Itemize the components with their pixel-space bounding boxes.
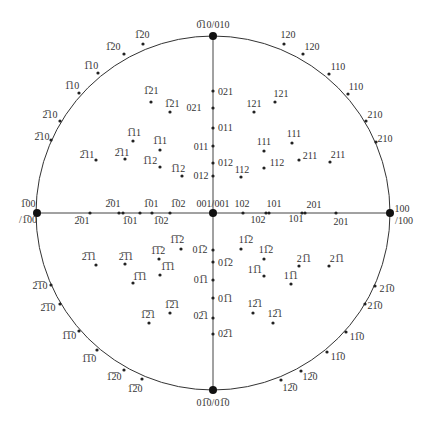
pole-point xyxy=(363,302,366,305)
pole-label: 1̅11 xyxy=(153,135,167,146)
pole-label: 2̅1̅0 xyxy=(33,280,48,291)
pole-point xyxy=(211,316,214,319)
pole-label: 1̅2̅1 xyxy=(165,299,180,310)
pole-label: 1̅12 xyxy=(171,163,186,174)
pole-point xyxy=(327,72,330,75)
right-pole-label-secondary: /100 xyxy=(395,215,413,226)
center-pole-marker xyxy=(209,209,217,217)
pole-point xyxy=(95,348,98,351)
pole-point xyxy=(211,174,214,177)
pole-label: 01̅1 xyxy=(218,293,233,304)
pole-label: 01̅2 xyxy=(218,257,233,268)
right-pole-label: 100 xyxy=(395,203,410,214)
pole-label: 021 xyxy=(218,86,233,97)
pole-label: 101 xyxy=(289,213,304,224)
pole-label: 1̅01 xyxy=(144,198,159,209)
pole-label: 211 xyxy=(303,150,318,161)
pole-label: 1̅1̅2 xyxy=(170,234,185,245)
pole-label: 210 xyxy=(368,109,383,120)
bottom-pole-label: 01̅0/01̅0 xyxy=(197,397,230,408)
pole-label: 01̅2 xyxy=(193,244,208,255)
pole-point xyxy=(140,377,143,380)
pole-label: 11̅0 xyxy=(331,351,346,362)
pole-point xyxy=(239,175,242,178)
pole-point xyxy=(179,247,182,250)
pole-label: 102 xyxy=(235,198,250,209)
top-pole-marker xyxy=(209,32,217,40)
pole-label: 021 xyxy=(187,102,202,113)
pole-label: 21̅1 xyxy=(330,253,345,264)
pole-label: 1̅20 xyxy=(135,29,150,40)
pole-label: 102 xyxy=(251,214,266,225)
pole-label: 12̅1 xyxy=(268,308,283,319)
pole-point xyxy=(251,311,254,314)
pole-point xyxy=(168,311,171,314)
pole-label: 201 xyxy=(334,216,349,227)
pole-point xyxy=(344,330,347,333)
pole-point xyxy=(211,296,214,299)
pole-point xyxy=(131,139,134,142)
pole-label: 21̅1 xyxy=(297,253,312,264)
pole-label: 1̅02 xyxy=(171,198,186,209)
pole-point xyxy=(328,160,331,163)
pole-label: 2̅01 xyxy=(75,215,90,226)
pole-label: 121 xyxy=(274,88,289,99)
pole-point xyxy=(303,211,306,214)
pole-label: 1̅21 xyxy=(144,85,159,96)
pole-label: 01̅1 xyxy=(194,274,209,285)
pole-label: 1̅1̅0 xyxy=(62,330,77,341)
pole-label: 201 xyxy=(307,199,322,210)
pole-label: 2̅1̅1 xyxy=(82,251,97,262)
pole-label: 1̅11 xyxy=(127,127,141,138)
pole-point xyxy=(211,89,214,92)
pole-point xyxy=(262,274,265,277)
pole-label: 2̅10 xyxy=(35,131,50,142)
pole-point xyxy=(282,42,285,45)
pole-label: 1̅12 xyxy=(143,155,158,166)
pole-point xyxy=(158,273,161,276)
pole-label: 2̅11 xyxy=(115,147,130,158)
top-pole-label: 0̅10/010 xyxy=(197,19,230,30)
pole-point xyxy=(211,332,214,335)
stereographic-projection-diagram: 1̅201̅201̅101̅102̅102̅101201201101102102… xyxy=(0,0,426,427)
pole-point xyxy=(373,284,376,287)
pole-point xyxy=(149,100,152,103)
pole-point xyxy=(262,149,265,152)
pole-label: 211 xyxy=(331,149,346,160)
pole-point xyxy=(96,71,99,74)
pole-label: 1̅02 xyxy=(154,215,169,226)
pole-label: 012 xyxy=(194,170,209,181)
pole-label: 2̅01 xyxy=(106,198,121,209)
pole-point xyxy=(297,158,300,161)
pole-label: 2̅1̅0 xyxy=(41,302,56,313)
pole-label: 012 xyxy=(218,157,233,168)
pole-label: 02̅1 xyxy=(194,310,209,321)
pole-point xyxy=(94,158,97,161)
pole-label: 21̅0 xyxy=(380,283,395,294)
pole-point xyxy=(262,166,265,169)
pole-label: 12̅1 xyxy=(248,298,263,309)
pole-point xyxy=(158,165,161,168)
pole-label: 112 xyxy=(270,157,285,168)
pole-point xyxy=(147,321,150,324)
pole-label: 2̅1̅1 xyxy=(119,251,134,262)
left-pole-label: 1̅00 xyxy=(21,198,36,209)
pole-point xyxy=(211,248,214,251)
pole-point xyxy=(211,278,214,281)
pole-point xyxy=(211,161,214,164)
right-pole-marker xyxy=(386,209,394,217)
pole-label: 11̅1 xyxy=(284,270,298,281)
pole-point xyxy=(301,52,304,55)
pole-label: 2̅11 xyxy=(80,149,95,160)
pole-point xyxy=(346,92,349,95)
pole-point xyxy=(77,91,80,94)
pole-label: 11̅2 xyxy=(239,234,254,245)
pole-point xyxy=(168,211,171,214)
pole-label: 101 xyxy=(267,198,282,209)
pole-label: 1̅1̅0 xyxy=(82,353,97,364)
pole-point xyxy=(58,119,61,122)
pole-label: 110 xyxy=(331,61,346,72)
pole-label: 1̅10 xyxy=(84,60,99,71)
pole-label: 120 xyxy=(305,41,320,52)
pole-point xyxy=(267,211,270,214)
